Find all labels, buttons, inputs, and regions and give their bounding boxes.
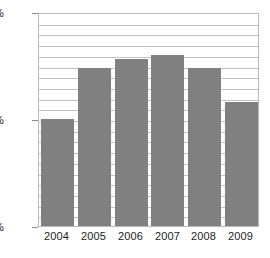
y-axis-tick-label: 65% xyxy=(0,8,4,19)
bar xyxy=(188,68,221,226)
x-axis-tick-label: 2008 xyxy=(185,231,222,242)
bar xyxy=(151,55,184,226)
bar xyxy=(78,68,111,226)
x-axis: 200420052006200720082009 xyxy=(38,231,259,249)
x-axis-tick-label: 2009 xyxy=(222,231,259,242)
bar xyxy=(225,102,258,226)
y-axis-tick-label: 55% xyxy=(0,222,4,233)
bar xyxy=(115,59,148,226)
y-axis-tick-label: 60% xyxy=(0,115,4,126)
x-axis-tick-label: 2007 xyxy=(149,231,186,242)
bar-series xyxy=(39,14,258,226)
bar xyxy=(41,119,74,226)
bar-chart: 65%60%55% 200420052006200720082009 xyxy=(0,0,270,258)
plot-area xyxy=(38,13,259,227)
y-axis-tick-mark xyxy=(32,227,38,228)
x-axis-tick-label: 2006 xyxy=(112,231,149,242)
x-axis-tick-label: 2004 xyxy=(38,231,75,242)
x-axis-tick-label: 2005 xyxy=(75,231,112,242)
